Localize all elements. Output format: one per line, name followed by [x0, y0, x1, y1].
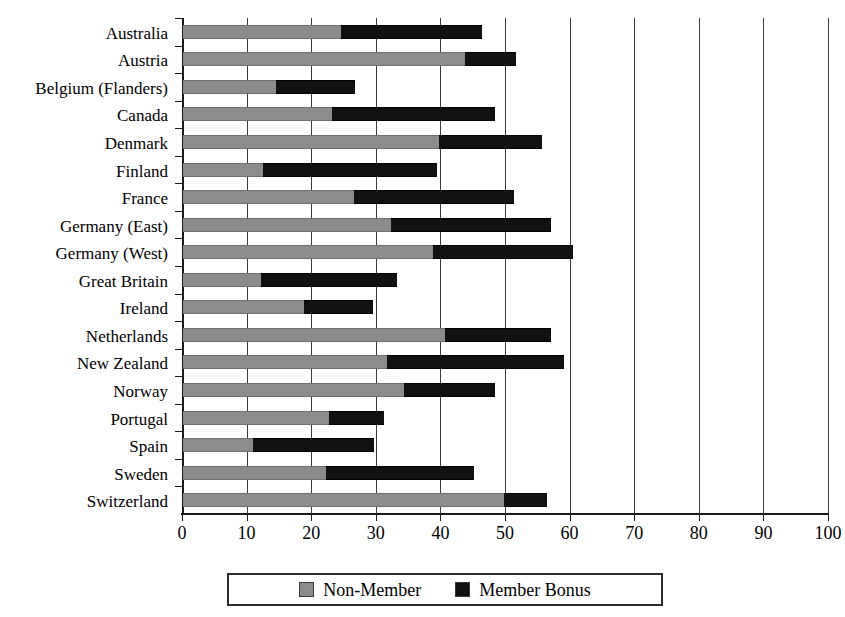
x-tick-40: [440, 514, 441, 521]
bar-segment-member-bonus: [439, 135, 542, 149]
x-tick-label: 60: [561, 522, 579, 544]
bar-segment-non-member: [183, 163, 263, 177]
y-tick: [175, 486, 182, 487]
value-axis-labels: 0102030405060708090100: [182, 522, 828, 550]
legend-item-bonus: Member Bonus: [455, 580, 591, 600]
x-tick-label: 70: [625, 522, 643, 544]
category-label: Great Britain: [79, 272, 168, 291]
bar-segment-member-bonus: [253, 438, 374, 452]
legend-item-nonmember: Non-Member: [299, 580, 421, 600]
x-tick-30: [376, 514, 377, 521]
bar-segment-non-member: [183, 190, 354, 204]
bar-segment-member-bonus: [445, 328, 550, 342]
legend-swatch-icon: [299, 582, 314, 597]
bar-segment-non-member: [183, 245, 433, 259]
y-tick: [175, 376, 182, 377]
bar-segment-non-member: [183, 466, 326, 480]
category-label: Germany (West): [56, 244, 168, 263]
x-tick-20: [311, 514, 312, 521]
bar-segment-non-member: [183, 300, 304, 314]
bar-segment-member-bonus: [276, 80, 355, 94]
x-tick-label: 80: [690, 522, 708, 544]
x-tick-label: 100: [815, 522, 842, 544]
y-tick: [175, 73, 182, 74]
y-tick: [175, 46, 182, 47]
legend-label: Non-Member: [323, 580, 421, 600]
gridline-40: [440, 18, 441, 514]
bar-segment-member-bonus: [391, 218, 551, 232]
category-label: Netherlands: [86, 327, 168, 346]
y-tick: [175, 18, 182, 19]
category-label: Ireland: [120, 299, 168, 318]
bar-segment-member-bonus: [332, 107, 495, 121]
legend-swatch-icon: [455, 582, 470, 597]
x-tick-label: 20: [302, 522, 320, 544]
legend-label: Member Bonus: [479, 580, 591, 600]
bar-segment-non-member: [183, 273, 261, 287]
y-tick: [175, 156, 182, 157]
bar-segment-non-member: [183, 80, 276, 94]
category-label: New Zealand: [77, 354, 168, 373]
bar-segment-member-bonus: [504, 493, 547, 507]
category-label: France: [122, 189, 168, 208]
bar-segment-member-bonus: [404, 383, 495, 397]
bar-segment-non-member: [183, 411, 329, 425]
y-tick: [175, 349, 182, 350]
y-tick: [175, 266, 182, 267]
bar-segment-member-bonus: [387, 355, 564, 369]
bar-segment-member-bonus: [341, 25, 482, 39]
bar-segment-member-bonus: [304, 300, 373, 314]
category-label: Belgium (Flanders): [35, 79, 168, 98]
x-tick-60: [570, 514, 571, 521]
y-tick: [175, 211, 182, 212]
bar-segment-member-bonus: [263, 163, 437, 177]
bar-segment-non-member: [183, 25, 341, 39]
x-tick-70: [634, 514, 635, 521]
gridline-60: [570, 18, 571, 514]
y-tick: [175, 404, 182, 405]
gridline-70: [634, 18, 635, 514]
x-tick-label: 90: [754, 522, 772, 544]
category-label: Australia: [106, 24, 168, 43]
category-label: Canada: [117, 106, 168, 125]
gridline-90: [763, 18, 764, 514]
x-tick-label: 30: [367, 522, 385, 544]
y-tick: [175, 183, 182, 184]
category-label: Switzerland: [87, 492, 168, 511]
bar-segment-non-member: [183, 328, 445, 342]
y-tick: [175, 238, 182, 239]
y-tick: [175, 128, 182, 129]
category-label: Spain: [129, 437, 168, 456]
bar-segment-member-bonus: [326, 466, 474, 480]
bar-segment-member-bonus: [354, 190, 514, 204]
bar-segment-non-member: [183, 438, 253, 452]
bar-segment-member-bonus: [329, 411, 384, 425]
category-label: Portugal: [110, 410, 168, 429]
bar-segment-non-member: [183, 107, 332, 121]
y-tick: [175, 431, 182, 432]
x-tick-50: [505, 514, 506, 521]
bar-segment-non-member: [183, 493, 504, 507]
y-tick: [175, 101, 182, 102]
bar-segment-member-bonus: [465, 52, 515, 66]
category-label: Finland: [116, 162, 168, 181]
y-tick: [175, 459, 182, 460]
category-label: Sweden: [114, 465, 168, 484]
category-label: Germany (East): [60, 217, 168, 236]
x-tick-80: [699, 514, 700, 521]
x-tick-100: [828, 514, 829, 521]
chart-legend: Non-MemberMember Bonus: [227, 573, 663, 606]
category-label: Denmark: [105, 134, 168, 153]
category-axis-labels: AustraliaAustriaBelgium (Flanders)Canada…: [0, 18, 176, 514]
bar-segment-non-member: [183, 355, 387, 369]
bar-segment-member-bonus: [433, 245, 573, 259]
gridline-50: [505, 18, 506, 514]
plot-area: [182, 18, 828, 514]
x-tick-label: 0: [178, 522, 187, 544]
category-label: Norway: [113, 382, 168, 401]
x-tick-0: [182, 514, 183, 521]
x-tick-label: 10: [238, 522, 256, 544]
stacked-bar-chart: AustraliaAustriaBelgium (Flanders)Canada…: [0, 0, 845, 617]
bar-segment-non-member: [183, 135, 439, 149]
gridline-100: [828, 18, 829, 514]
